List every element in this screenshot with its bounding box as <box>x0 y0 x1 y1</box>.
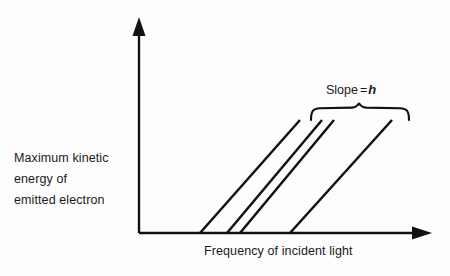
y-axis-label-line-2: energy of <box>14 169 144 190</box>
x-axis-label: Frequency of incident light <box>204 243 353 259</box>
slope-annotation-prefix: Slope <box>326 83 358 97</box>
data-line-metal-1 <box>200 120 300 233</box>
slope-annotation-equals: = <box>358 83 368 97</box>
slope-brace-icon <box>311 104 409 120</box>
data-line-metal-4 <box>290 120 392 233</box>
y-axis-arrowhead-icon <box>133 17 146 36</box>
slope-annotation-variable: h <box>368 82 376 97</box>
y-axis-label: Maximum kinetic energy of emitted electr… <box>14 148 144 211</box>
x-axis-arrowhead-icon <box>412 227 432 240</box>
data-line-metal-3 <box>240 120 334 233</box>
diagram-canvas <box>0 0 450 276</box>
y-axis-label-line-3: emitted electron <box>14 190 144 211</box>
data-line-metal-2 <box>227 120 322 233</box>
slope-annotation: Slope=h <box>326 82 376 98</box>
y-axis-label-line-1: Maximum kinetic <box>14 148 144 169</box>
photoelectric-effect-diagram: Maximum kinetic energy of emitted electr… <box>0 0 450 276</box>
